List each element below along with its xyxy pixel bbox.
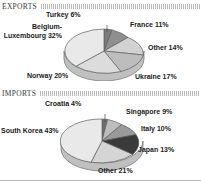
exports-title: EXPORTS (0, 2, 37, 11)
exports-pie-svg (63, 21, 145, 81)
imports-label-italy: Italy 10% (141, 125, 171, 134)
exports-label-belgium-luxembourg: Belgium-Luxembourg 32% (0, 23, 62, 40)
exports-chart-panel: Turkey 6% France 11% Other 14% Ukraine 1… (0, 11, 201, 88)
imports-label-japan: Japan 13% (138, 146, 174, 155)
exports-label-ukraine: Ukraine 17% (135, 73, 177, 82)
exports-pie (63, 21, 145, 81)
exports-label-other: Other 14% (148, 44, 183, 53)
chart-figure: EXPORTS (0, 0, 201, 181)
exports-label-france: France 11% (130, 21, 169, 30)
imports-label-other: Other 21% (98, 167, 133, 176)
exports-header-rule (41, 4, 200, 9)
imports-label-south-korea: South Korea 43% (1, 127, 59, 136)
imports-label-singapore: Singapore 9% (126, 108, 172, 117)
imports-pie-svg (60, 110, 144, 172)
imports-title: IMPORTS (0, 89, 36, 98)
imports-pie (60, 110, 144, 172)
imports-header-rule (40, 91, 200, 96)
exports-label-turkey: Turkey 6% (46, 11, 81, 20)
imports-label-croatia: Croatia 4% (45, 100, 81, 109)
exports-label-norway: Norway 20% (27, 72, 68, 81)
imports-chart-panel: Croatia 4% Singapore 9% Italy 10% Japan … (0, 98, 201, 178)
